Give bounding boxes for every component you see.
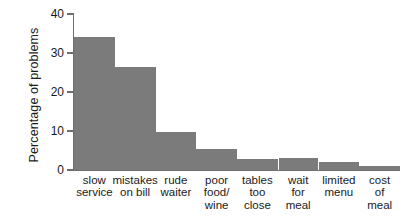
x-axis-line bbox=[73, 170, 400, 171]
y-tick-mark bbox=[67, 130, 74, 131]
x-axis-label-line: cost bbox=[353, 174, 406, 186]
x-axis-label-line: meal bbox=[353, 199, 406, 211]
x-axis-label: costofmeal bbox=[353, 174, 406, 211]
bar bbox=[237, 159, 278, 170]
bar bbox=[115, 67, 156, 170]
y-tick-label: 20 bbox=[38, 86, 64, 98]
bar bbox=[279, 158, 318, 170]
bar bbox=[359, 166, 400, 170]
bar-series bbox=[74, 14, 400, 170]
y-tick-label: 0 bbox=[38, 164, 64, 176]
bar bbox=[319, 162, 360, 170]
y-tick-mark bbox=[67, 52, 74, 53]
y-tick-mark bbox=[67, 169, 74, 170]
x-axis-label-line: of bbox=[353, 186, 406, 198]
bar bbox=[74, 37, 115, 170]
y-tick-mark bbox=[67, 13, 74, 14]
bar bbox=[156, 132, 197, 170]
y-tick-label: 10 bbox=[38, 125, 64, 137]
bar bbox=[196, 149, 237, 170]
y-tick-label: 40 bbox=[38, 8, 64, 20]
plot-area: 010203040 bbox=[74, 14, 400, 170]
y-tick-mark bbox=[67, 91, 74, 92]
x-axis-label-line: meal bbox=[272, 199, 325, 211]
y-tick-label: 30 bbox=[38, 47, 64, 59]
x-axis-labels: slowservicemistakeson billrudewaiterpoor… bbox=[74, 174, 400, 220]
bar-chart: Percentage of problems 010203040 slowser… bbox=[0, 0, 417, 220]
